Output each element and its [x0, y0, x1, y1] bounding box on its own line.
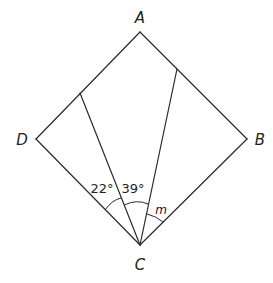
- vertex-label-b: B: [255, 131, 265, 149]
- segment-c-to-ad: [80, 93, 140, 245]
- angle-label-middle: 39°: [121, 181, 144, 196]
- angle-label-left: 22°: [90, 181, 113, 196]
- vertex-label-c: C: [135, 256, 146, 274]
- side-ab: [140, 32, 247, 139]
- angle-label-right: m: [155, 203, 167, 217]
- side-bc: [140, 139, 247, 245]
- vertex-label-a: A: [134, 9, 145, 27]
- arc-angle-left: [105, 198, 121, 210]
- geometry-diagram: A D B C 22° 39° m: [0, 0, 273, 283]
- vertex-label-d: D: [16, 131, 28, 149]
- arc-angle-middle: [124, 202, 148, 205]
- side-da: [36, 32, 140, 139]
